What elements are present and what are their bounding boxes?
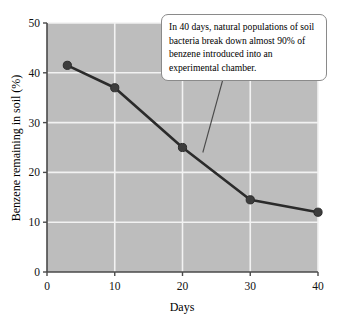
x-axis-tick-labels: 010203040: [44, 280, 324, 292]
annotation-text: In 40 days, natural populations of soil …: [169, 21, 314, 73]
y-tick-label: 20: [29, 166, 41, 178]
benzene-degradation-chart: 01020304050 010203040 Days Benzene remai…: [0, 0, 342, 321]
x-tick-label: 20: [177, 280, 189, 292]
y-tick-label: 50: [29, 17, 41, 29]
data-point: [246, 196, 254, 204]
y-axis-title: Benzene remaining in soil (%): [9, 75, 23, 222]
annotation-callout: In 40 days, natural populations of soil …: [161, 14, 327, 81]
y-tick-label: 30: [29, 117, 41, 129]
data-point: [314, 208, 322, 216]
y-tick-label: 10: [29, 216, 41, 228]
y-axis-tick-labels: 01020304050: [29, 17, 41, 278]
data-point: [63, 61, 71, 69]
data-point: [178, 143, 186, 151]
x-tick-label: 0: [44, 280, 50, 292]
x-axis-title: Days: [170, 300, 195, 314]
y-tick-label: 40: [29, 67, 41, 79]
data-point: [111, 84, 119, 92]
x-tick-label: 40: [312, 280, 324, 292]
x-tick-label: 10: [109, 280, 121, 292]
y-tick-label: 0: [34, 266, 40, 278]
x-tick-label: 30: [245, 280, 257, 292]
